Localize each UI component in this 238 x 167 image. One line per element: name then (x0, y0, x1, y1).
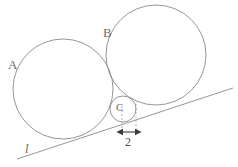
figure-canvas (0, 0, 238, 167)
dimension-value-label: 2 (125, 136, 131, 148)
geometry-figure: A B C l 2 (0, 0, 238, 167)
tangent-line-label: l (25, 142, 29, 155)
circle-C-label: C (116, 102, 123, 113)
circle-B-outline (106, 5, 206, 105)
circle-A-outline (13, 39, 113, 139)
circle-B-label: B (103, 26, 112, 39)
circle-A-label: A (8, 58, 17, 71)
